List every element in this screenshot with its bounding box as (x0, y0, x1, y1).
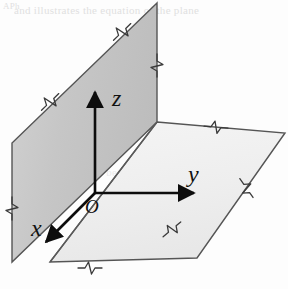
figure-canvas: and illustrates the equation of the plan… (0, 0, 288, 289)
y-axis-label: y (186, 161, 199, 187)
coordinate-system-figure: and illustrates the equation of the plan… (0, 0, 288, 289)
z-axis-label: z (111, 85, 122, 111)
origin-label: O (85, 196, 99, 217)
break-mark-vertical-bottom (78, 262, 102, 274)
x-axis-label: x (30, 215, 42, 241)
ghost-text-corner: APh (3, 1, 20, 11)
ghost-text-top: and illustrates the equation of the plan… (14, 4, 199, 16)
